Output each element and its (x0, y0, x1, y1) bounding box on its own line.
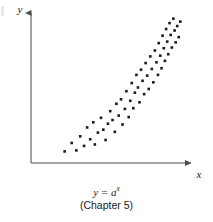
y-axis-label: y (17, 3, 23, 15)
data-point (167, 53, 170, 56)
data-point (165, 28, 168, 31)
data-point (179, 20, 182, 23)
data-point (121, 123, 124, 126)
data-point (89, 138, 92, 141)
data-point (102, 128, 105, 131)
data-point (79, 135, 82, 138)
data-point (94, 143, 97, 146)
data-point (157, 74, 160, 77)
data-point (125, 90, 128, 93)
data-point (130, 82, 133, 85)
data-point (115, 102, 118, 105)
data-point (177, 36, 180, 39)
caption-chapter: (Chapter 5) (0, 199, 213, 212)
data-point (100, 117, 103, 120)
data-point (75, 149, 78, 152)
data-point (149, 55, 152, 58)
data-point (176, 25, 179, 28)
data-point (127, 116, 130, 119)
data-point (143, 93, 146, 96)
figure-container: y x y = ax (Chapter 5) (0, 0, 213, 222)
data-point (154, 49, 157, 52)
data-point (160, 67, 163, 70)
x-axis-label: x (196, 168, 202, 180)
data-point (166, 40, 169, 43)
data-point (114, 131, 117, 134)
data-point (134, 91, 137, 94)
data-point (157, 42, 160, 45)
data-point (120, 98, 123, 101)
data-point (83, 145, 86, 148)
data-point (164, 60, 167, 63)
data-point (141, 80, 144, 83)
data-point (109, 110, 112, 113)
data-point (111, 119, 114, 122)
formula-exponent: x (116, 184, 119, 193)
data-point (146, 74, 149, 77)
data-point (144, 62, 147, 65)
data-point (138, 101, 141, 104)
data-point (151, 68, 154, 71)
data-point (132, 107, 135, 110)
data-point (169, 34, 172, 37)
data-point (159, 54, 162, 57)
data-point (152, 81, 155, 84)
data-point (92, 121, 95, 124)
data-point-group (63, 17, 181, 152)
data-point (97, 131, 100, 134)
data-point (63, 150, 66, 153)
data-point (124, 108, 127, 111)
data-point (70, 142, 73, 145)
axes-group (31, 13, 191, 163)
data-point (104, 139, 107, 142)
data-point (168, 22, 171, 25)
data-point (129, 100, 132, 103)
data-point (107, 122, 110, 125)
data-point (137, 86, 140, 89)
data-point (135, 74, 138, 77)
data-point (163, 47, 166, 50)
data-point (155, 61, 158, 64)
caption-formula: y = ax (0, 182, 213, 199)
data-point (172, 17, 175, 20)
data-point (161, 34, 164, 37)
data-point (174, 41, 177, 44)
data-point (140, 68, 143, 71)
data-point (147, 88, 150, 91)
figure-caption: y = ax (Chapter 5) (0, 182, 213, 212)
data-point (117, 114, 120, 117)
formula-equals: = (98, 186, 111, 198)
data-point (173, 29, 176, 32)
data-point (171, 46, 174, 49)
data-point (86, 126, 89, 129)
